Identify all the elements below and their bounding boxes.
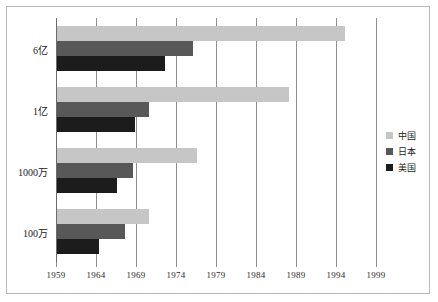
legend-item-美国[interactable]: 美国	[386, 160, 434, 174]
x-axis-tick-label: 1969	[127, 270, 146, 280]
chart-legend: 中国日本美国	[386, 128, 434, 176]
legend-label: 中国	[398, 129, 416, 142]
legend-swatch-icon	[386, 132, 393, 139]
legend-item-中国[interactable]: 中国	[386, 128, 434, 142]
bar-日本-1亿	[57, 102, 149, 117]
x-axis-tick	[296, 262, 297, 267]
bar-中国-6亿	[57, 26, 345, 41]
legend-label: 日本	[398, 145, 416, 158]
x-axis-tick-label: 1994	[327, 270, 346, 280]
gridline	[376, 18, 377, 262]
bar-日本-100万	[57, 224, 125, 239]
bar-中国-1000万	[57, 148, 197, 163]
y-axis-category-label: 100万	[23, 225, 48, 240]
chart-root: 195919641969197419791984198919941999 中国日…	[0, 0, 438, 302]
x-axis-tick-label: 1989	[287, 270, 306, 280]
bar-美国-100万	[57, 239, 99, 254]
x-axis-tick	[376, 262, 377, 267]
gridline	[216, 18, 217, 262]
bar-美国-6亿	[57, 56, 165, 71]
gridline	[336, 18, 337, 262]
gridline	[296, 18, 297, 262]
legend-label: 美国	[398, 161, 416, 174]
y-axis-category-label: 1亿	[33, 103, 48, 118]
bar-美国-1000万	[57, 178, 117, 193]
x-axis-tick	[216, 262, 217, 267]
plot-area: 195919641969197419791984198919941999	[56, 18, 376, 262]
x-axis-tick	[56, 262, 57, 267]
x-axis-tick-label: 1979	[207, 270, 226, 280]
y-axis-category-label: 1000万	[18, 164, 48, 179]
x-axis-tick-label: 1999	[367, 270, 386, 280]
legend-swatch-icon	[386, 148, 393, 155]
bar-中国-100万	[57, 209, 149, 224]
x-axis-tick-label: 1974	[167, 270, 186, 280]
x-axis-tick	[96, 262, 97, 267]
x-axis-tick	[336, 262, 337, 267]
legend-item-日本[interactable]: 日本	[386, 144, 434, 158]
x-axis-tick-label: 1964	[87, 270, 106, 280]
x-axis-tick-label: 1984	[247, 270, 266, 280]
x-axis-tick	[256, 262, 257, 267]
x-axis-tick	[136, 262, 137, 267]
gridline	[256, 18, 257, 262]
bar-日本-6亿	[57, 41, 193, 56]
legend-swatch-icon	[386, 164, 393, 171]
bar-美国-1亿	[57, 117, 135, 132]
x-axis-tick	[176, 262, 177, 267]
y-axis-category-label: 6亿	[33, 42, 48, 57]
bar-日本-1000万	[57, 163, 133, 178]
bar-中国-1亿	[57, 87, 289, 102]
x-axis-tick-label: 1959	[47, 270, 66, 280]
